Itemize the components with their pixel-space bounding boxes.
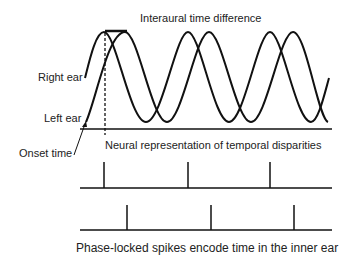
left-ear-label: Left ear [44, 113, 81, 124]
diagram-title: Interaural time difference [140, 13, 261, 24]
right-ear-label: Right ear [38, 72, 83, 83]
caption: Phase-locked spikes encode time in the i… [76, 242, 338, 254]
itd-diagram [0, 0, 351, 259]
right-ear-wave [85, 32, 329, 122]
onset-time-label: Onset time [19, 148, 72, 159]
neural-representation-label: Neural representation of temporal dispar… [105, 140, 321, 151]
onset-arrow [74, 124, 85, 155]
